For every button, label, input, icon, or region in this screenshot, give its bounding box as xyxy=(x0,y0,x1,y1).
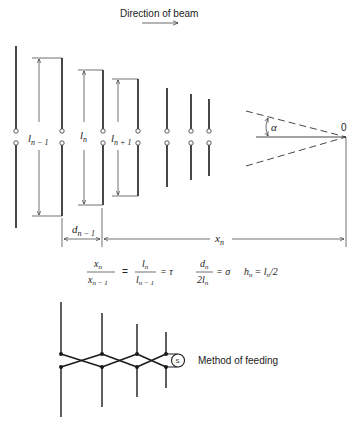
ratio3-denominator: 2ln xyxy=(197,274,209,287)
tau-term: = τ xyxy=(160,266,173,277)
element-5-upper-terminal xyxy=(165,129,169,133)
equals-sign: = xyxy=(122,266,128,277)
element-1-lower-terminal xyxy=(14,141,18,145)
ratio2-numerator: ln xyxy=(142,258,149,271)
apex-angle xyxy=(246,111,346,166)
apex-label: 0 xyxy=(341,122,347,133)
design-equations: xn xn − 1 = ln ln − 1 = τ dn 2ln = σ hn=… xyxy=(87,258,278,287)
element-2-upper-terminal xyxy=(60,129,64,133)
d-prev-label: dn − 1 xyxy=(72,223,95,238)
element-3-lower-terminal xyxy=(101,141,105,145)
ratio2-denominator: ln − 1 xyxy=(136,274,154,287)
element-1-upper-terminal xyxy=(14,129,18,133)
feeding-diagram xyxy=(59,302,185,417)
ratio3-numerator: dn xyxy=(200,258,209,271)
l-prev-label: ln − 1 xyxy=(28,132,48,147)
element-2-lower-terminal xyxy=(60,141,64,145)
ratio1-numerator: xn xyxy=(93,258,102,271)
lpda-diagram: Direction of beam ln − 1 ln ln + 1 dn − … xyxy=(0,0,357,425)
element-5-lower-terminal xyxy=(165,141,169,145)
source-symbol: S xyxy=(176,358,180,364)
element-6-upper-terminal xyxy=(189,129,193,133)
lower-dashed-line xyxy=(246,137,346,166)
upper-dashed-line xyxy=(246,111,346,137)
element-4-upper-terminal xyxy=(136,129,140,133)
x-n-label: xn xyxy=(214,232,224,247)
alpha-label: α xyxy=(271,121,277,133)
alpha-arc xyxy=(266,118,268,136)
sigma-term: = σ xyxy=(216,266,231,277)
method-of-feeding-label: Method of feeding xyxy=(198,355,278,366)
ratio1-denominator: xn − 1 xyxy=(87,274,108,287)
element-6-lower-terminal xyxy=(189,141,193,145)
element-7-lower-terminal xyxy=(207,141,211,145)
h-equation: hn= ln/2 xyxy=(244,266,278,279)
element-7-upper-terminal xyxy=(207,129,211,133)
direction-of-beam-label: Direction of beam xyxy=(120,8,198,19)
spacing-dimensions xyxy=(62,137,346,247)
element-3-upper-terminal xyxy=(101,129,105,133)
l-cur-label: ln xyxy=(80,129,87,144)
element-4-lower-terminal xyxy=(136,141,140,145)
l-next-label: ln + 1 xyxy=(111,132,131,147)
